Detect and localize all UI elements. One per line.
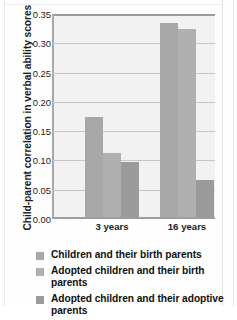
bar-series-container [52,14,215,217]
y-axis-tick-label: 0.25 [21,67,51,78]
bar-group [85,14,139,217]
y-axis-tick-label: 0.10 [21,155,51,166]
x-axis-tick-label: 3 years [95,221,128,232]
legend-label: Adopted children and their birth parents [51,265,226,290]
x-axis-line [52,217,215,219]
bar [121,162,139,217]
x-axis-tick-label: 16 years [168,221,206,232]
y-axis-tick-label: 0.05 [21,184,51,195]
y-axis-tick-label: 0.30 [21,38,51,49]
legend-item: Children and their birth parents [36,249,226,262]
x-axis-tick-labels: 3 years16 years [52,221,215,237]
bar [103,153,121,217]
legend-swatch [36,252,44,260]
bar [85,117,103,217]
y-axis-tick-label: 0.00 [21,214,51,225]
legend-label: Children and their birth parents [51,249,202,262]
bar [160,23,178,217]
y-axis-tick-label: 0.15 [21,126,51,137]
legend-swatch [36,268,44,276]
plot-area [52,14,215,219]
bar [196,180,214,217]
legend-swatch [36,296,44,304]
legend-item: Adopted children and their adoptive pare… [36,293,226,318]
frame-border-outer-right [233,0,234,306]
legend-label: Adopted children and their adoptive pare… [51,293,226,318]
y-axis-tick-labels: 0.350.300.250.200.150.100.050.00 [21,14,51,219]
bar-chart: Child-parent correlation in verbal abili… [5,5,222,245]
bar-group [160,14,214,217]
bar [178,29,196,218]
chart-legend: Children and their birth parentsAdopted … [36,249,226,320]
y-axis-tick-label: 0.20 [21,96,51,107]
legend-item: Adopted children and their birth parents [36,265,226,290]
y-axis-tick-label: 0.35 [21,9,51,20]
